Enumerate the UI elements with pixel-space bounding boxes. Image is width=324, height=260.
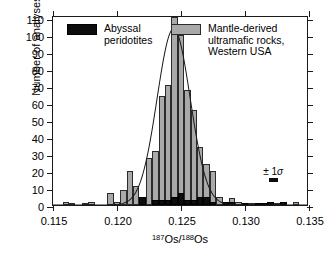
y-axis-tick-right: [307, 173, 313, 174]
x-axis-tick-top: [309, 11, 310, 17]
x-axis-tick: 0.125: [181, 205, 182, 211]
y-axis-tick-right: [307, 88, 313, 89]
x-axis-tick-label: 0.125: [168, 215, 196, 227]
histogram-bar-abyssal: [267, 202, 273, 205]
legend-item-abyssal-peridotites: Abyssal peridotites: [67, 23, 152, 46]
y-axis-tick: 110: [47, 20, 53, 21]
histogram-bar-abyssal: [139, 197, 145, 205]
x-axis-tick-top: [181, 11, 182, 17]
histogram-bar-mantle: [293, 202, 299, 205]
x-axis-title-numerator: 187: [152, 233, 165, 242]
x-axis-tick-label: 0.135: [296, 215, 324, 227]
y-axis-tick-right: [307, 139, 313, 140]
x-axis-title-denominator: 188: [182, 233, 195, 242]
y-axis-tick-right: [307, 122, 313, 123]
x-axis-tick: 0.120: [117, 205, 118, 211]
x-axis-tick-label: 0.115: [41, 215, 68, 227]
y-axis-tick: 70: [47, 88, 53, 89]
sigma-error-bar-icon: [269, 178, 278, 182]
error-bar-annotation: ± 1σ: [253, 166, 293, 182]
histogram-bar-abyssal: [280, 202, 286, 205]
histogram-bar-abyssal: [210, 202, 216, 205]
y-axis-tick-label: 50: [32, 116, 44, 128]
y-axis-tick-label: 110: [26, 14, 44, 26]
x-axis-tick-top: [245, 11, 246, 17]
y-axis-tick: 50: [47, 122, 53, 123]
y-axis-tick-label: 0: [38, 201, 44, 213]
plot-frame: 0102030405060708090100110 0.1150.1200.12…: [52, 16, 308, 206]
y-axis-tick: 30: [47, 156, 53, 157]
y-axis-tick: 40: [47, 139, 53, 140]
y-axis-tick-label: 30: [32, 150, 44, 162]
y-axis-tick: 80: [47, 71, 53, 72]
x-axis-title-element2: Os: [194, 233, 208, 245]
y-axis-tick-label: 60: [32, 99, 44, 111]
x-axis-title: 187Os/188Os: [52, 233, 308, 245]
grey-swatch-icon: [171, 24, 201, 35]
y-axis-tick-right: [307, 190, 313, 191]
legend-label-abyssal: Abyssal peridotites: [104, 23, 152, 46]
y-axis-tick-label: 80: [32, 65, 44, 77]
histogram-bar-abyssal: [229, 202, 235, 205]
sigma-label: ± 1σ: [253, 166, 293, 177]
y-axis-tick: 60: [47, 105, 53, 106]
y-axis-tick-label: 70: [32, 82, 44, 94]
histogram-bar-mantle: [88, 202, 94, 205]
y-axis-tick-right: [307, 54, 313, 55]
histogram-figure: Number of analyses 010203040506070809010…: [0, 0, 324, 260]
y-axis-tick-label: 10: [32, 184, 44, 196]
x-axis-tick-label: 0.120: [104, 215, 132, 227]
y-axis-tick: 90: [47, 54, 53, 55]
y-axis-tick-right: [307, 156, 313, 157]
histogram-bar-mantle: [69, 203, 75, 205]
x-axis-tick: 0.130: [245, 205, 246, 211]
y-axis-tick: 10: [47, 190, 53, 191]
x-axis-title-element1: Os/: [164, 233, 181, 245]
x-axis-tick: 0.135: [309, 205, 310, 211]
legend-label-mantle: Mantle-derived ultramafic rocks, Western…: [208, 23, 284, 58]
y-axis-tick-label: 100: [26, 31, 44, 43]
y-axis-tick-label: 90: [32, 48, 44, 60]
x-axis-tick-top: [53, 11, 54, 17]
y-axis-tick-label: 40: [32, 133, 44, 145]
y-axis-tick-right: [307, 71, 313, 72]
y-axis-tick-label: 20: [32, 167, 44, 179]
y-axis-tick-right: [307, 37, 313, 38]
y-axis-tick: 20: [47, 173, 53, 174]
x-axis-tick-top: [117, 11, 118, 17]
y-axis-tick: 100: [47, 37, 53, 38]
legend-item-mantle-derived: Mantle-derived ultramafic rocks, Western…: [171, 23, 284, 58]
black-swatch-icon: [67, 24, 97, 35]
x-axis-tick: 0.115: [53, 205, 54, 211]
y-axis-tick-right: [307, 20, 313, 21]
y-axis-tick-right: [307, 105, 313, 106]
y-axis-tick-right: [307, 207, 313, 208]
x-axis-tick-label: 0.130: [232, 215, 260, 227]
